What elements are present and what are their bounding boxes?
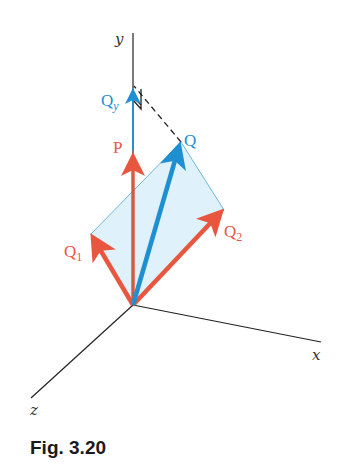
z-axis-label: z [29,401,38,419]
label-p: P [113,138,122,157]
x-axis [133,305,321,342]
label-q: Q [184,131,196,150]
label-q2: Q2 [224,222,242,244]
label-q1: Q1 [64,242,82,264]
y-axis-label: y [114,30,124,48]
z-axis [31,305,133,398]
label-qy: Qy [101,91,119,113]
vector-diagram: y x z Qy P Q Q1 Q2 [0,0,340,464]
figure-caption: Fig. 3.20 [30,437,106,459]
x-axis-label: x [312,346,321,364]
